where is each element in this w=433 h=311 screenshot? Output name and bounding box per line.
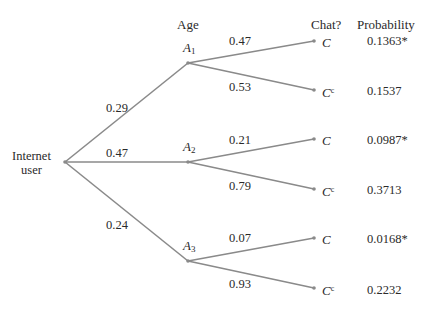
prob-a2: 0.47 (106, 146, 128, 160)
joint-a3-cc: 0.2232 (367, 283, 401, 297)
branch-a3-cc (188, 261, 314, 288)
joint-a1-cc: 0.1537 (367, 84, 401, 98)
joint-a3-c: 0.0168* (367, 232, 408, 246)
node-a2: A2 (183, 140, 195, 157)
leaf-a3-cc: Cc (322, 282, 334, 298)
leaf-a1-cc: Cc (322, 84, 334, 100)
joint-a1-c: 0.1363* (367, 34, 408, 48)
header-age: Age (177, 18, 199, 32)
branch-a1-cc (188, 63, 314, 90)
branch-root-a3 (65, 162, 188, 261)
leaf-a1-c: C (322, 34, 331, 50)
prob-a1-cc: 0.53 (229, 80, 251, 94)
prob-a3: 0.24 (106, 218, 128, 232)
header-chat: Chat? (311, 18, 341, 32)
leaf-a2-cc: Cc (322, 183, 334, 199)
prob-a1-c: 0.47 (229, 34, 251, 48)
node-a1: A1 (183, 41, 195, 58)
branch-a2-cc (188, 162, 314, 189)
joint-a2-c: 0.0987* (367, 133, 408, 147)
root-line2: user (12, 163, 51, 177)
node-a3: A3 (183, 239, 195, 256)
header-probability: Probability (357, 18, 415, 32)
joint-a2-cc: 0.3713 (367, 183, 401, 197)
root-line1: Internet (12, 149, 51, 163)
prob-a1: 0.29 (106, 101, 128, 115)
branch-a3-c (188, 238, 314, 261)
leaf-a2-c: C (322, 132, 331, 148)
branch-a2-c (188, 139, 314, 162)
prob-a2-cc: 0.79 (229, 179, 251, 193)
leaf-a3-c: C (322, 231, 331, 247)
prob-a2-c: 0.21 (229, 133, 251, 147)
root-label: Internet user (12, 149, 51, 177)
prob-a3-c: 0.07 (229, 231, 251, 245)
prob-a3-cc: 0.93 (229, 277, 251, 291)
branch-a1-c (188, 41, 314, 63)
